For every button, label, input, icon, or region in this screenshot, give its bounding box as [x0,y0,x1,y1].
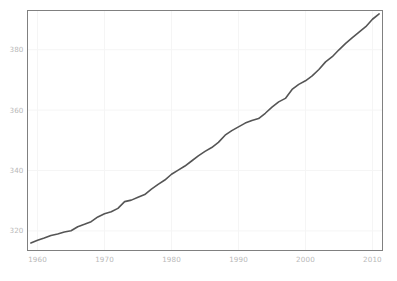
x-axis-tick-label: 1990 [218,255,258,264]
x-axis-tick-label: 2000 [285,255,325,264]
x-axis-tick-label: 2010 [352,255,392,264]
y-axis-tick-label: 360 [2,106,24,115]
x-axis-tick-label: 1960 [18,255,58,264]
y-axis-tick-label: 340 [2,166,24,175]
line-chart-plot [0,0,397,281]
plot-frame [28,11,383,251]
data-line-series [31,14,379,243]
grid-lines [28,11,383,251]
x-axis-tick-label: 1980 [152,255,192,264]
figure-caption [74,271,324,281]
x-axis-tick-label: 1970 [85,255,125,264]
y-axis-tick-label: 320 [2,226,24,235]
chart-figure: 320340360380196019701980199020002010 [0,0,397,281]
y-axis-tick-label: 380 [2,45,24,54]
